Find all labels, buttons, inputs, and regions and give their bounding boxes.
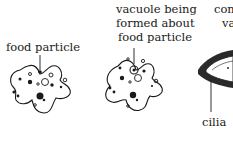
cell-1-icon: [11, 55, 71, 113]
cell-2-vacuoles: [127, 58, 158, 107]
cell-2-icon: [106, 48, 163, 111]
diagram-drawing: [0, 0, 233, 143]
cell-3-cilia-icon: [198, 50, 233, 112]
cell-1-inclusions: [12, 70, 62, 101]
